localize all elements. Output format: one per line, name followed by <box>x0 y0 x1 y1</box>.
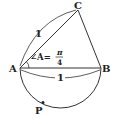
label-P: P <box>35 105 43 116</box>
length-label-AC: 1 <box>35 28 42 39</box>
angle-label-numerator: π <box>56 48 63 57</box>
segment-CB <box>78 10 101 68</box>
angle-label-denominator: 4 <box>57 58 62 67</box>
angle-label-prefix: ∠A= <box>30 52 51 62</box>
label-A: A <box>8 63 17 74</box>
length-label-AB: 1 <box>57 72 64 83</box>
geometry-diagram: C A B P 1 1 ∠A= π 4 <box>0 0 122 124</box>
point-P-dot <box>42 101 45 104</box>
diagram-canvas: C A B P 1 1 ∠A= π 4 <box>0 0 122 124</box>
label-C: C <box>74 0 82 11</box>
angle-arc-A <box>26 62 29 68</box>
label-B: B <box>102 63 110 74</box>
